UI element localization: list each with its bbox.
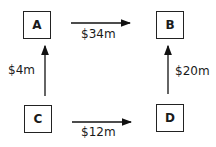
node-a: A: [23, 11, 51, 39]
node-d: D: [156, 104, 184, 132]
node-b: B: [156, 11, 184, 39]
edge-label-c-d: $12m: [81, 125, 116, 139]
node-c: C: [24, 105, 52, 133]
edge-label-c-a: $4m: [8, 63, 35, 77]
edge-label-d-b: $20m: [175, 64, 210, 78]
edge-label-a-b: $34m: [81, 27, 116, 41]
